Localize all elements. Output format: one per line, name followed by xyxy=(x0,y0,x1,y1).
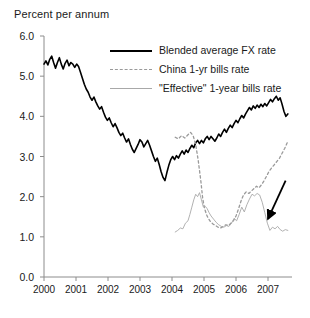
x-tick-label: 2006 xyxy=(219,284,253,295)
legend-label: Blended average FX rate xyxy=(159,44,276,56)
x-tick-label: 2002 xyxy=(91,284,125,295)
legend-item: China 1-yr bills rate xyxy=(110,59,281,78)
legend-label: China 1-yr bills rate xyxy=(159,63,249,75)
x-tick-label: 2001 xyxy=(59,284,93,295)
x-tick-label: 2004 xyxy=(155,284,189,295)
y-tick-label: 3.0 xyxy=(10,151,34,163)
legend-label: "Effective" 1-year bills rate xyxy=(159,82,281,94)
legend-swatch-solid-thick xyxy=(110,44,152,56)
y-tick-label: 0.0 xyxy=(10,271,34,283)
x-axis-ticks xyxy=(44,277,268,281)
legend-item: "Effective" 1-year bills rate xyxy=(110,78,281,97)
y-tick-label: 4.0 xyxy=(10,110,34,122)
y-tick-label: 2.0 xyxy=(10,191,34,203)
x-tick-label: 2003 xyxy=(123,284,157,295)
legend-swatch-dashed xyxy=(110,63,152,75)
y-tick-label: 6.0 xyxy=(10,30,34,42)
x-tick-label: 2005 xyxy=(187,284,221,295)
chart-figure: Percent per annum 0.01.02.03.04.05.06.0 … xyxy=(0,0,310,318)
x-tick-label: 2007 xyxy=(251,284,285,295)
arrow-annotation xyxy=(268,181,286,219)
y-tick-label: 5.0 xyxy=(10,70,34,82)
chart-legend: Blended average FX rateChina 1-yr bills … xyxy=(110,40,281,97)
x-tick-label: 2000 xyxy=(27,284,61,295)
legend-item: Blended average FX rate xyxy=(110,40,281,59)
y-tick-label: 1.0 xyxy=(10,231,34,243)
chart-annotations xyxy=(268,181,286,219)
y-axis-ticks xyxy=(40,36,44,277)
legend-swatch-solid-thin xyxy=(110,82,152,94)
